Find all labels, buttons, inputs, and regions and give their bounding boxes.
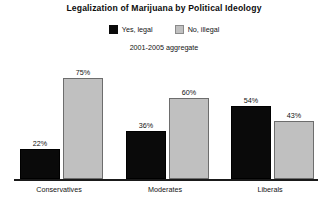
legend-label-yes-legal: Yes, legal	[122, 25, 153, 34]
bar-value-0-no: 75%	[63, 68, 103, 77]
bar-1-no	[169, 98, 209, 179]
legend-label-no-illegal: No, illegal	[188, 25, 220, 34]
bar-1-yes	[126, 131, 166, 179]
bar-0-yes	[20, 149, 60, 179]
legend-swatch-icon-yes-legal	[109, 25, 118, 34]
legend-swatch-icon-no-illegal	[175, 25, 184, 34]
x-axis-line	[14, 179, 318, 181]
plot-area: 22% 75% 36% 60% 54%	[14, 58, 318, 181]
chart-legend: Yes, legal No, illegal	[0, 25, 328, 34]
bar-group-2: 54% 43%	[231, 58, 321, 179]
x-tick-label-0: Conservatives	[14, 185, 104, 194]
bar-group-1: 36% 60%	[126, 58, 216, 179]
bar-value-1-no: 60%	[169, 88, 209, 97]
legend-item-yes-legal: Yes, legal	[109, 25, 153, 34]
bar-chart: Legalization of Marijuana by Political I…	[0, 0, 328, 209]
bar-value-2-no: 43%	[274, 111, 314, 120]
x-tick-label-1: Moderates	[120, 185, 210, 194]
chart-title: Legalization of Marijuana by Political I…	[0, 3, 328, 13]
chart-subtitle: 2001-2005 aggregate	[0, 43, 328, 52]
bar-0-no	[63, 78, 103, 179]
bar-2-no	[274, 121, 314, 179]
x-tick-label-2: Liberals	[225, 185, 315, 194]
bar-group-0: 22% 75%	[20, 58, 110, 179]
bar-value-2-yes: 54%	[231, 96, 271, 105]
bar-value-0-yes: 22%	[20, 139, 60, 148]
legend-item-no-illegal: No, illegal	[175, 25, 220, 34]
bar-value-1-yes: 36%	[126, 121, 166, 130]
bar-2-yes	[231, 106, 271, 179]
